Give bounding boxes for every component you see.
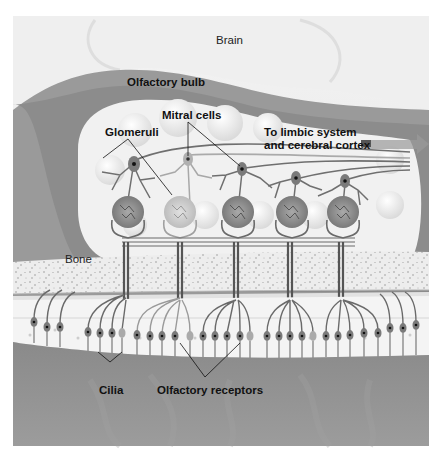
- bone-label: Bone: [65, 253, 92, 266]
- olfactory-bulb-label: Olfactory bulb: [127, 76, 205, 89]
- olfactory-diagram: Brain Olfactory bulb Mitral cells Glomer…: [0, 0, 439, 453]
- brain-label: Brain: [216, 34, 243, 47]
- glomeruli-label: Glomeruli: [105, 126, 159, 139]
- olfactory-receptors-label: Olfactory receptors: [157, 384, 263, 397]
- limbic-label-line2: and cerebral cortex: [264, 139, 370, 152]
- cilia-label: Cilia: [99, 384, 123, 397]
- mitral-cells-label: Mitral cells: [162, 109, 221, 122]
- limbic-label-line1: To limbic system: [264, 126, 356, 139]
